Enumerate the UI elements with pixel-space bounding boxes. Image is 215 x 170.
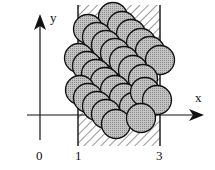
tick-label-0: 0 (36, 148, 43, 163)
y-axis-label: y (50, 10, 57, 25)
x-axis-label: x (195, 90, 202, 105)
disc (127, 104, 156, 133)
disc (102, 110, 131, 139)
tick-label-1: 1 (75, 148, 82, 163)
disc-packing-diagram: y x 0 1 3 (0, 0, 215, 170)
tick-label-3: 3 (156, 148, 163, 163)
